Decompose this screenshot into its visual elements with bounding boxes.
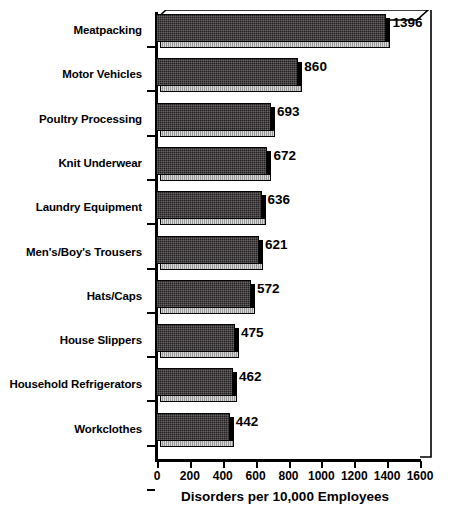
x-axis-tick (420, 461, 422, 468)
bar-value-label: 572 (257, 281, 280, 296)
bar-bottom-face (160, 174, 271, 181)
chart-frame-right (420, 10, 432, 458)
y-axis-tick (147, 312, 155, 314)
bar-value-label: 462 (239, 369, 262, 384)
bar[interactable] (157, 368, 233, 396)
category-label: Knit Underwear (0, 157, 142, 169)
bar[interactable] (157, 413, 230, 441)
x-axis-tick (289, 461, 291, 468)
x-axis-tick (223, 461, 225, 468)
x-axis-tick (157, 461, 159, 468)
bar-value-label: 636 (268, 192, 291, 207)
y-axis-tick (147, 356, 155, 358)
bar-group (157, 14, 394, 54)
bar-group (157, 280, 259, 320)
bar-group (157, 147, 275, 187)
bar[interactable] (157, 147, 267, 175)
x-axis-tick (256, 461, 258, 468)
y-axis-tick (147, 135, 155, 137)
x-axis-tick-label: 1600 (398, 470, 442, 483)
bar-value-label: 1396 (392, 15, 422, 30)
x-axis-title: Disorders per 10,000 Employees (140, 489, 430, 504)
bar-bottom-face (160, 41, 390, 48)
bar-bottom-face (160, 351, 239, 358)
plot-area: 1396860693672636621572475462442 (157, 14, 420, 458)
bar-bottom-face (160, 85, 302, 92)
bar-bottom-face (160, 218, 266, 225)
category-label: Workclothes (0, 423, 142, 435)
category-label: Poultry Processing (0, 113, 142, 125)
bar[interactable] (157, 236, 259, 264)
bar-bottom-face (160, 307, 255, 314)
bar-bottom-face (160, 263, 263, 270)
bar-group (157, 103, 279, 143)
y-axis-tick (147, 268, 155, 270)
bar-group (157, 236, 267, 276)
bar-chart: MeatpackingMotor VehiclesPoultry Process… (0, 0, 467, 518)
bar-group (157, 58, 306, 98)
category-label: House Slippers (0, 334, 142, 346)
bar-bottom-face (160, 130, 275, 137)
x-axis-tick (387, 461, 389, 468)
category-label: Hats/Caps (0, 290, 142, 302)
bar-bottom-face (160, 440, 234, 447)
bar[interactable] (157, 103, 271, 131)
category-label: Meatpacking (0, 24, 142, 36)
bar-value-label: 693 (277, 104, 300, 119)
bar-value-label: 672 (273, 148, 296, 163)
x-axis-tick (354, 461, 356, 468)
x-axis-tick (190, 461, 192, 468)
bar-value-label: 621 (265, 237, 288, 252)
category-label: Men's/Boy's Trousers (0, 246, 142, 258)
y-axis-tick (147, 90, 155, 92)
bar-value-label: 860 (304, 59, 327, 74)
bar[interactable] (157, 280, 251, 308)
y-axis-tick (147, 400, 155, 402)
bar[interactable] (157, 324, 235, 352)
bar-value-label: 475 (241, 325, 264, 340)
y-axis-tick (147, 179, 155, 181)
category-label: Laundry Equipment (0, 201, 142, 213)
y-axis-tick (147, 223, 155, 225)
bar[interactable] (157, 191, 262, 219)
category-label: Motor Vehicles (0, 68, 142, 80)
x-axis-tick (321, 461, 323, 468)
bar-bottom-face (160, 395, 237, 402)
bar[interactable] (157, 14, 386, 42)
bar[interactable] (157, 58, 298, 86)
bar-group (157, 368, 241, 408)
bar-group (157, 191, 270, 231)
category-label: Household Refrigerators (0, 378, 142, 390)
bar-value-label: 442 (236, 414, 259, 429)
bar-group (157, 324, 243, 364)
y-axis-tick (147, 445, 155, 447)
bar-group (157, 413, 238, 453)
y-axis-tick (147, 46, 155, 48)
y-axis-category-labels: MeatpackingMotor VehiclesPoultry Process… (0, 12, 148, 450)
